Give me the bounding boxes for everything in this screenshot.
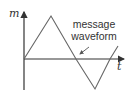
y-axis-label: m (9, 7, 19, 20)
diagram-canvas: m t message waveform (0, 0, 128, 109)
message-waveform-diagram: m t message waveform (0, 0, 128, 109)
annotation-line-2: waveform (70, 30, 117, 42)
annotation-pointer-arrow (80, 47, 89, 54)
annotation-line-1: message (73, 18, 116, 30)
x-axis-label: t (117, 60, 122, 73)
